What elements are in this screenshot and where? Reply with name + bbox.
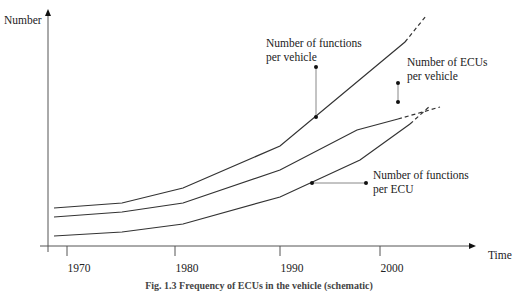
leader-functions-per-vehicle — [314, 65, 318, 119]
series-functions-per-vehicle — [54, 16, 426, 208]
y-axis — [45, 9, 51, 252]
tick-label-1990: 1990 — [281, 262, 304, 274]
y-axis-label: Number — [4, 13, 42, 27]
leader-functions-per-ecu — [310, 181, 368, 185]
tick-label-1980: 1980 — [176, 262, 199, 274]
annotation-ecus-per-vehicle: Number of ECUs per vehicle — [407, 55, 488, 83]
x-axis — [40, 243, 476, 256]
annotation-functions-per-ecu: Number of functions per ECU — [373, 168, 469, 196]
figure-caption: Fig. 1.3 Frequency of ECUs in the vehicl… — [0, 280, 518, 291]
tick-label-2000: 2000 — [381, 262, 404, 274]
x-axis-arrow-icon — [469, 243, 476, 249]
x-axis-label: Time — [488, 248, 512, 262]
tick-label-1970: 1970 — [68, 262, 91, 274]
leader-ecus-per-vehicle — [396, 81, 400, 104]
annotation-functions-per-vehicle: Number of functions per vehicle — [266, 36, 362, 64]
y-axis-arrow-icon — [45, 9, 51, 16]
series-ecus-per-vehicle — [54, 107, 440, 217]
